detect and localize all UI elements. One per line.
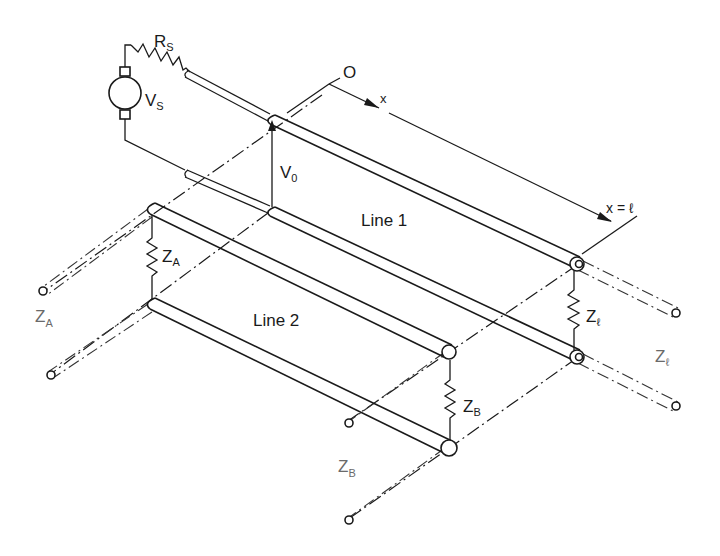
v0-arrow [268,120,276,207]
source-leads [185,70,270,213]
za-label: ZA [162,247,180,268]
reference-dashed-lines [39,95,680,524]
line-1-label: Line 1 [361,211,407,230]
generator-terminal-top [120,67,130,76]
line-2-lower-end [441,440,457,456]
line-1-conductors [268,115,584,364]
zl-ref-label: Zℓ [655,347,669,368]
zb-label: ZB [463,397,481,418]
line-2-upper-end [442,345,456,359]
line-2-conductors [147,203,457,456]
line-2-label: Line 2 [253,311,299,330]
x-equals-l-label: x = ℓ [606,200,634,216]
v0-label: V0 [280,163,297,184]
zb-ref-label: ZB [338,457,356,479]
coupled-lines-diagram: RS VS V0 O x x = ℓ Line 1 Line 2 ZA ZA Z… [0,0,720,556]
x-arrow-icon [364,98,379,108]
generator-terminal-bottom [120,110,130,119]
za-ref-label: ZA [35,307,53,329]
origin-tick [287,78,340,113]
generator-icon [109,77,141,109]
resistor-zl-icon [568,271,579,350]
origin-label: O [343,63,356,82]
source-top-wire [125,45,131,68]
source-bottom-wire [125,119,185,170]
x-label: x [380,91,387,106]
position-axis [287,78,637,254]
rs-label: RS [154,32,174,53]
resistor-zb-icon [445,360,455,440]
zl-label: Zℓ [586,307,600,328]
vs-label: VS [145,91,164,112]
end-tick [582,216,637,254]
resistor-za-icon [147,215,157,299]
